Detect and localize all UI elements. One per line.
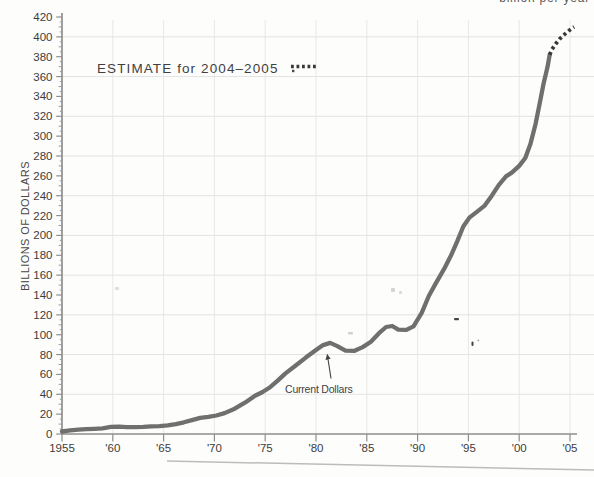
y-axis-title: BILLIONS OF DOLLARS bbox=[19, 161, 31, 291]
x-tick-label: '65 bbox=[156, 442, 171, 454]
x-tick-label: '90 bbox=[410, 442, 425, 454]
y-tick-label: 220 bbox=[33, 210, 52, 222]
y-tick-label: 400 bbox=[33, 31, 52, 43]
y-tick-label: 200 bbox=[33, 229, 52, 241]
y-tick-label: 260 bbox=[33, 170, 52, 182]
scanned-chart-page: billion per year 02040608010012014016018… bbox=[0, 0, 594, 477]
y-tick-label: 240 bbox=[33, 190, 52, 202]
scan-speck bbox=[454, 318, 459, 320]
y-tick-label: 120 bbox=[33, 309, 52, 321]
scan-artifacts bbox=[115, 287, 479, 346]
x-tick-label: '70 bbox=[207, 442, 222, 454]
y-tick-label: 40 bbox=[40, 388, 53, 400]
legend-stray-dot bbox=[292, 70, 294, 72]
y-tick-label: 340 bbox=[33, 90, 52, 102]
line-chart: 0204060801001201401601802002202402602803… bbox=[0, 0, 594, 477]
annotation-arrow bbox=[327, 355, 331, 379]
y-tick-label: 20 bbox=[40, 408, 53, 420]
bottom-page-rule bbox=[167, 461, 594, 470]
y-tick-label: 100 bbox=[33, 329, 52, 341]
x-tick-label: '75 bbox=[258, 442, 273, 454]
data-series bbox=[62, 27, 574, 432]
scan-speck bbox=[478, 340, 480, 342]
x-tick-label: '95 bbox=[461, 442, 476, 454]
scan-speck bbox=[391, 288, 395, 292]
y-tick-label: 320 bbox=[33, 110, 52, 122]
x-tick-label: '80 bbox=[309, 442, 324, 454]
y-tick-label: 180 bbox=[33, 249, 52, 261]
y-tick-label: 280 bbox=[33, 150, 52, 162]
gridlines bbox=[62, 20, 594, 433]
scan-speck bbox=[472, 342, 474, 347]
y-tick-label: 160 bbox=[33, 269, 52, 281]
x-tick-label: '05 bbox=[563, 442, 578, 454]
y-tick-label: 80 bbox=[40, 349, 53, 361]
y-tick-label: 420 bbox=[33, 11, 52, 23]
x-tick-label: 1955 bbox=[49, 442, 75, 454]
annotation-current-dollars: Current Dollars bbox=[285, 383, 353, 395]
y-tick-label: 0 bbox=[46, 428, 52, 440]
scan-speck bbox=[399, 291, 402, 294]
x-tick-label: '00 bbox=[512, 442, 527, 454]
y-tick-label: 300 bbox=[33, 130, 52, 142]
scan-speck bbox=[348, 332, 353, 335]
y-tick-label: 380 bbox=[33, 51, 52, 63]
y-tick-label: 60 bbox=[40, 368, 53, 380]
y-tick-label: 140 bbox=[33, 289, 52, 301]
x-tick-label: '85 bbox=[359, 442, 374, 454]
current-dollars-line bbox=[62, 55, 550, 432]
x-tick-label: '60 bbox=[105, 442, 120, 454]
legend-label: ESTIMATE for 2004–2005 bbox=[97, 61, 279, 76]
y-tick-label: 360 bbox=[33, 71, 52, 83]
scan-speck bbox=[115, 287, 119, 290]
